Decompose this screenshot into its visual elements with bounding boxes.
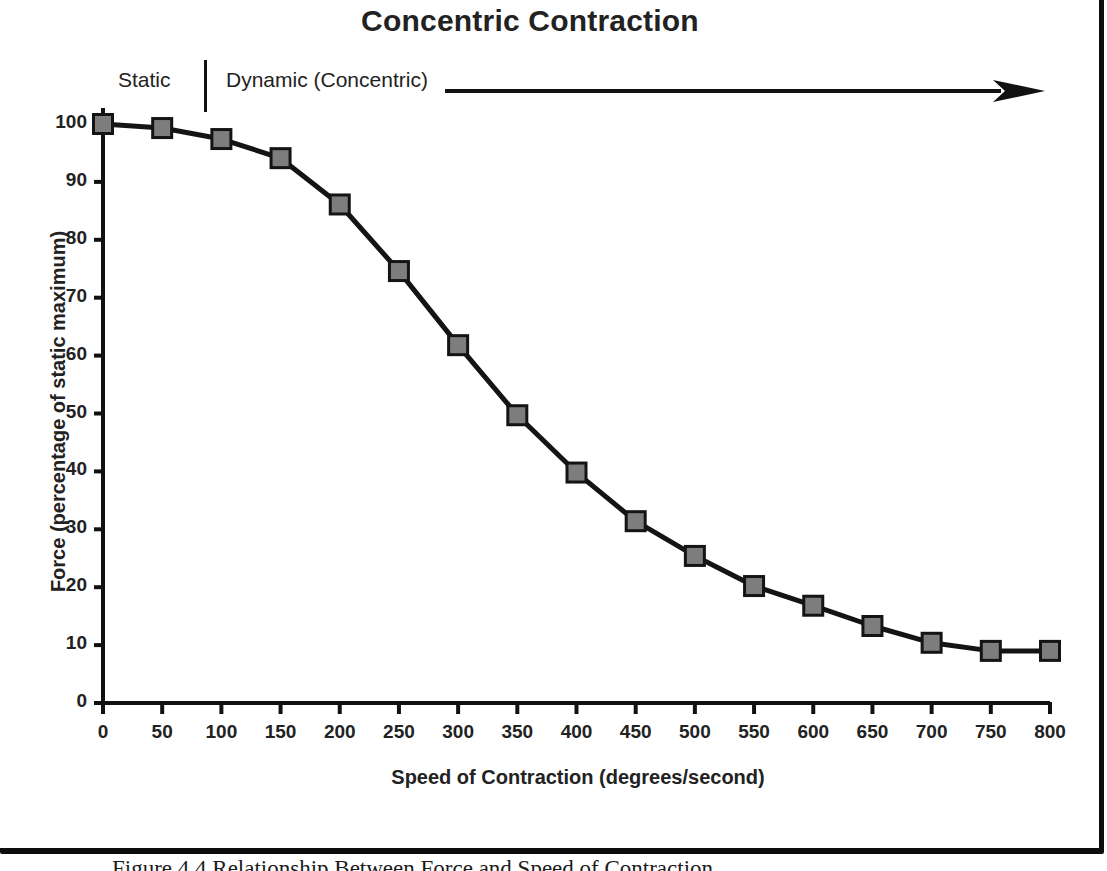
y-tick-label: 90	[41, 169, 87, 191]
force-velocity-curve	[0, 0, 1107, 760]
data-point-marker	[330, 195, 349, 214]
y-tick-label: 30	[41, 516, 87, 538]
data-point-marker	[626, 512, 645, 531]
data-point-marker	[922, 633, 941, 652]
x-tick-label: 450	[606, 721, 666, 743]
data-point-marker	[863, 616, 882, 635]
y-tick-label: 50	[41, 401, 87, 423]
x-tick-label: 800	[1020, 721, 1080, 743]
y-tick-label: 0	[41, 690, 87, 712]
y-tick-label: 40	[41, 458, 87, 480]
x-tick-label: 650	[842, 721, 902, 743]
x-tick-label: 550	[724, 721, 784, 743]
data-point-marker	[567, 463, 586, 482]
x-tick-label: 750	[961, 721, 1021, 743]
x-tick-label: 50	[132, 721, 192, 743]
x-tick-label: 400	[547, 721, 607, 743]
x-tick-label: 350	[487, 721, 547, 743]
x-tick-label: 150	[251, 721, 311, 743]
data-point-marker	[153, 119, 172, 138]
x-axis-title: Speed of Contraction (degrees/second)	[103, 766, 1053, 789]
x-tick-label: 0	[73, 721, 133, 743]
y-tick-label: 60	[41, 343, 87, 365]
x-tick-label: 600	[783, 721, 843, 743]
data-point-marker	[449, 336, 468, 355]
plot-area: Force (percentage of static maximum) Spe…	[0, 0, 1107, 760]
figure-frame: Concentric Contraction Static Dynamic (C…	[0, 0, 1107, 871]
figure-caption: Figure 4.4 Relationship Between Force an…	[112, 856, 1052, 871]
y-tick-label: 10	[41, 632, 87, 654]
data-point-marker	[745, 577, 764, 596]
y-tick-label: 70	[41, 285, 87, 307]
data-point-marker	[981, 641, 1000, 660]
data-point-marker	[271, 149, 290, 168]
figure-border-bottom	[0, 848, 1104, 854]
y-tick-label: 100	[41, 111, 87, 133]
data-point-marker	[685, 546, 704, 565]
data-point-marker	[1041, 641, 1060, 660]
x-tick-label: 300	[428, 721, 488, 743]
data-point-marker	[804, 596, 823, 615]
data-point-marker	[508, 406, 527, 425]
data-point-marker	[212, 130, 231, 149]
x-tick-label: 700	[902, 721, 962, 743]
x-tick-label: 100	[191, 721, 251, 743]
y-tick-label: 20	[41, 574, 87, 596]
y-tick-label: 80	[41, 227, 87, 249]
x-tick-label: 200	[310, 721, 370, 743]
data-point-marker	[389, 262, 408, 281]
data-point-marker	[94, 115, 113, 134]
x-tick-label: 500	[665, 721, 725, 743]
x-tick-label: 250	[369, 721, 429, 743]
